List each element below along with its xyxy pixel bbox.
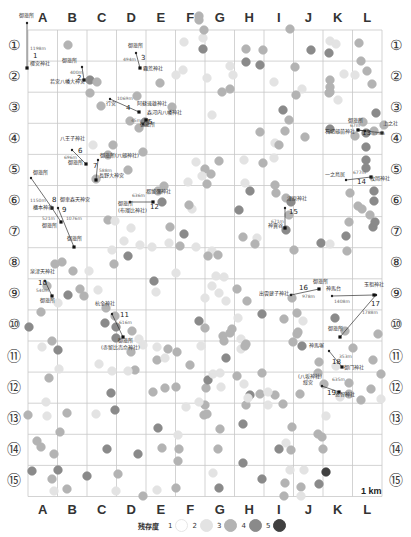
place-label: 靏荒神社 — [143, 65, 163, 72]
site-dot — [63, 485, 72, 494]
column-label-b: B — [62, 10, 82, 25]
site-dot — [319, 445, 328, 454]
place-label: 御旅所 — [62, 57, 77, 64]
site-dot — [153, 486, 162, 495]
site-dot — [64, 41, 73, 50]
place-label: 泉津天神社 — [30, 268, 55, 275]
site-dot — [280, 492, 289, 501]
route-number: 15 — [289, 208, 298, 216]
place-label: 上之社 — [383, 120, 398, 127]
site-dot — [83, 472, 92, 481]
site-dot — [275, 141, 284, 150]
site-dot — [251, 240, 260, 249]
place-label: (布瑠比神社) — [118, 207, 147, 214]
column-label-a: A — [33, 502, 53, 517]
route-distance: 521m — [42, 216, 55, 221]
row-label-12: ⑫ — [6, 379, 22, 395]
column-label-f: F — [180, 502, 200, 517]
column-label-l: L — [357, 10, 377, 25]
route-number: 7 — [93, 162, 97, 170]
site-dot — [175, 445, 184, 454]
column-label-i: I — [269, 502, 289, 517]
route-distance: 494m — [123, 57, 136, 62]
row-label-12: ⑫ — [388, 379, 404, 395]
site-dot — [80, 292, 89, 301]
site-dot — [128, 327, 137, 336]
row-label-6: ⑥ — [388, 192, 404, 208]
site-dot — [374, 330, 383, 339]
site-dot — [357, 57, 366, 66]
site-dot — [203, 74, 212, 83]
site-dot — [289, 338, 298, 347]
site-dot — [272, 189, 281, 198]
site-dot — [222, 297, 231, 306]
place-label: 櫻宮神社 — [30, 60, 50, 67]
site-dot — [149, 388, 158, 397]
column-label-f: F — [180, 10, 200, 25]
site-dot — [165, 239, 174, 248]
place-label: 若宮八幡大神宮 — [50, 78, 85, 85]
site-dot — [152, 288, 161, 297]
column-label-j: J — [298, 10, 318, 25]
legend-level-label: 1 — [168, 522, 172, 530]
site-dot — [367, 385, 376, 394]
row-label-15: ⑮ — [6, 472, 22, 488]
site-dot — [315, 480, 324, 489]
site-dot — [258, 369, 267, 378]
site-dot — [103, 445, 112, 454]
site-dot — [343, 247, 352, 256]
site-dot — [240, 380, 249, 389]
place-label: 御门神社 — [344, 364, 364, 371]
site-dot — [288, 423, 297, 432]
site-dot — [241, 179, 250, 188]
site-dots — [24, 12, 389, 501]
site-dot — [233, 372, 242, 381]
site-dot — [172, 484, 181, 493]
site-dot — [42, 398, 51, 407]
column-label-d: D — [121, 10, 141, 25]
site-dot — [215, 157, 224, 166]
place-label: 恩智神社 — [335, 391, 355, 398]
site-dot — [300, 466, 309, 475]
legend-swatch-icon — [249, 519, 262, 532]
site-dot — [307, 46, 316, 55]
site-dot — [297, 483, 306, 492]
route-line — [332, 295, 374, 296]
site-dot — [97, 102, 106, 111]
site-dot — [259, 46, 268, 55]
route-number: 4 — [126, 104, 131, 112]
legend-level-label: 5 — [266, 522, 270, 530]
site-dot — [362, 143, 371, 152]
place-label: 御旅所 — [67, 235, 82, 242]
route-start-point — [284, 207, 286, 209]
site-dot — [197, 342, 206, 351]
route-start-point — [345, 179, 347, 181]
route-distance: 1198m — [30, 46, 46, 51]
site-dot — [185, 201, 194, 210]
route-number: 6 — [78, 147, 83, 155]
site-dot — [110, 260, 119, 269]
route-distance: 555m — [372, 131, 385, 136]
site-dot — [139, 492, 148, 501]
site-dot — [124, 367, 133, 376]
route-number: 13 — [362, 129, 371, 137]
site-dot — [153, 343, 162, 352]
route-distance: 635m — [332, 377, 345, 382]
place-label: 行宮 — [106, 100, 116, 107]
site-dot — [139, 148, 148, 157]
site-dot — [37, 308, 46, 317]
shrine-point — [356, 128, 359, 131]
row-label-11: ⑪ — [6, 348, 22, 364]
place-label: 出雲建子神社 — [259, 290, 289, 297]
site-dot — [173, 348, 182, 357]
site-dot — [209, 469, 218, 478]
site-dot — [180, 230, 189, 239]
site-dot — [153, 356, 162, 365]
site-dot — [25, 323, 34, 332]
site-dot — [203, 410, 212, 419]
site-dot — [258, 475, 267, 484]
place-label: 八王子神社 — [60, 135, 85, 142]
site-dot — [114, 470, 123, 479]
column-label-d: D — [121, 502, 141, 517]
site-dot — [195, 398, 204, 407]
